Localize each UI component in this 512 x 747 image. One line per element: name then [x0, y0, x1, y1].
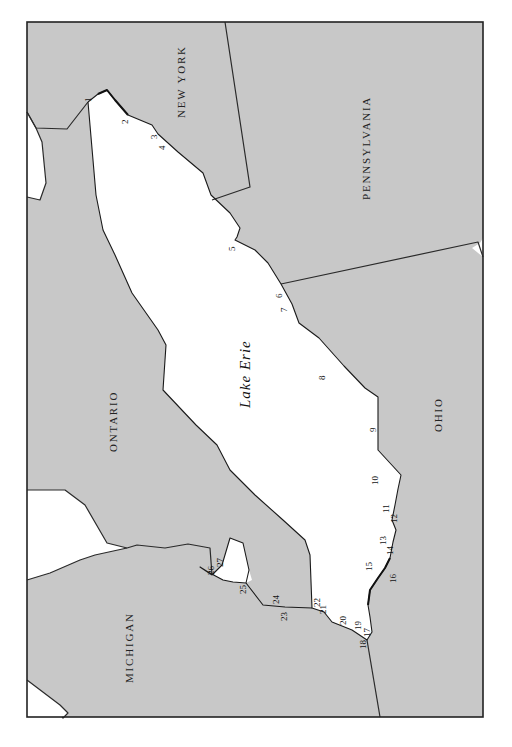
point-label-6: 6	[274, 293, 284, 298]
point-label-20: 20	[338, 616, 348, 626]
point-label-9: 9	[368, 427, 378, 432]
point-label-23: 23	[279, 612, 289, 622]
point-label-8: 8	[317, 375, 327, 380]
point-label-5: 5	[227, 246, 237, 251]
point-label-2: 2	[120, 120, 130, 125]
point-label-11: 11	[381, 504, 391, 513]
point-label-24: 24	[271, 595, 281, 605]
region-label-ohio: OHIO	[432, 397, 444, 432]
point-label-25: 25	[238, 585, 248, 595]
point-label-7: 7	[279, 307, 289, 312]
point-label-12: 12	[389, 514, 399, 523]
lake-erie-map: NEW YORK PENNSYLVANIA ONTARIO OHIO MICHI…	[0, 0, 512, 747]
point-label-16: 16	[388, 574, 398, 584]
point-label-3: 3	[149, 134, 159, 139]
point-label-18: 18	[358, 640, 368, 650]
point-label-14: 14	[385, 546, 395, 556]
point-label-19: 19	[353, 621, 363, 631]
point-label-17: 17	[362, 628, 372, 638]
point-label-22: 22	[312, 598, 322, 607]
point-label-13: 13	[378, 536, 388, 546]
region-label-new-york: NEW YORK	[175, 45, 187, 118]
point-label-15: 15	[364, 562, 374, 572]
point-label-1: 1	[83, 98, 93, 103]
region-label-pennsylvania: PENNSYLVANIA	[360, 96, 372, 200]
point-label-4: 4	[157, 145, 167, 150]
point-label-27: 27	[215, 558, 225, 568]
region-label-michigan: MICHIGAN	[123, 612, 135, 683]
point-label-10: 10	[370, 476, 380, 486]
lake-label: Lake Erie	[237, 340, 253, 409]
region-label-ontario: ONTARIO	[107, 391, 119, 452]
